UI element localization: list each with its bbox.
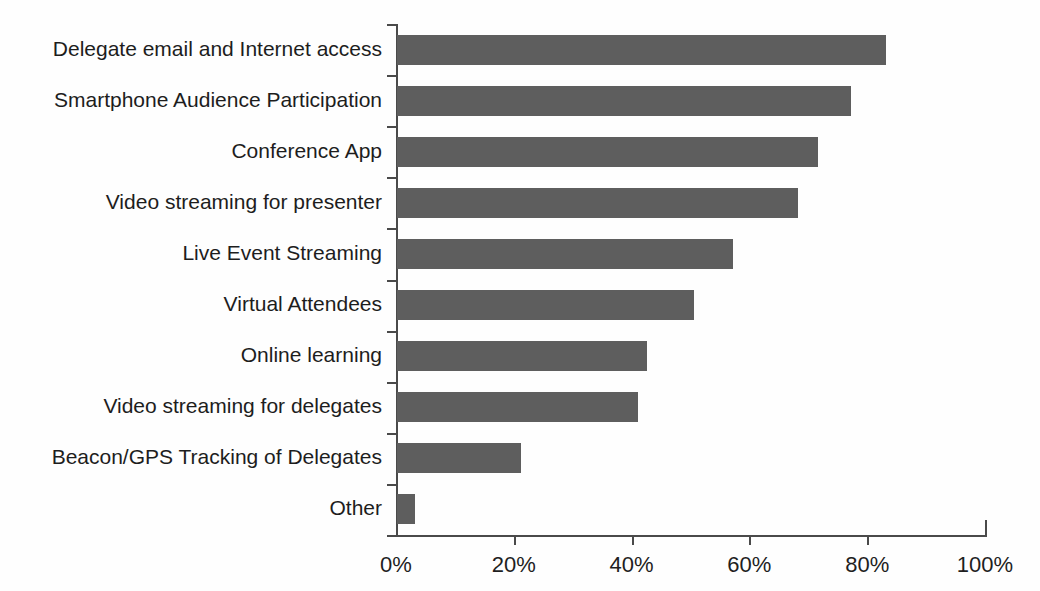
- plot-area: 0%20%40%60%80%100%: [396, 24, 985, 535]
- category-label: Other: [16, 496, 396, 520]
- x-axis-tick: [514, 535, 516, 545]
- y-axis-tick: [387, 24, 396, 26]
- y-axis-tick: [387, 126, 396, 128]
- y-axis-tick: [387, 484, 396, 486]
- x-axis-tick: [396, 524, 398, 537]
- x-axis-line: [396, 535, 985, 537]
- y-axis-tick: [387, 75, 396, 77]
- x-axis-tick-label: 60%: [727, 552, 771, 578]
- x-axis-tick-label: 100%: [957, 552, 1013, 578]
- bar: [397, 443, 521, 473]
- x-axis-tick-label: 40%: [610, 552, 654, 578]
- bar: [397, 35, 886, 65]
- bar: [397, 239, 733, 269]
- y-axis-tick: [387, 177, 396, 179]
- bar: [397, 494, 415, 524]
- category-label: Live Event Streaming: [16, 241, 396, 265]
- y-axis-tick: [387, 331, 396, 333]
- category-label: Video streaming for presenter: [16, 190, 396, 214]
- bar-chart: Delegate email and Internet accessSmartp…: [0, 0, 1040, 591]
- category-label: Smartphone Audience Participation: [16, 88, 396, 112]
- bar: [397, 137, 818, 167]
- y-axis-tick: [387, 535, 396, 537]
- bar: [397, 392, 638, 422]
- bar: [397, 86, 851, 116]
- bar: [397, 188, 798, 218]
- category-label: Video streaming for delegates: [16, 394, 396, 418]
- x-axis-tick-label: 20%: [492, 552, 536, 578]
- x-axis-tick-label: 80%: [845, 552, 889, 578]
- bar: [397, 341, 647, 371]
- x-axis-tick: [867, 535, 869, 545]
- category-label: Online learning: [16, 343, 396, 367]
- bar: [397, 290, 694, 320]
- category-label: Beacon/GPS Tracking of Delegates: [16, 445, 396, 469]
- y-axis-tick: [387, 228, 396, 230]
- x-axis-tick: [749, 535, 751, 545]
- x-axis-tick-label: 0%: [380, 552, 412, 578]
- y-axis-tick: [387, 280, 396, 282]
- y-axis-tick: [387, 382, 396, 384]
- x-axis-tick: [632, 535, 634, 545]
- category-label: Conference App: [16, 139, 396, 163]
- category-label: Delegate email and Internet access: [16, 37, 396, 61]
- y-axis-tick: [387, 433, 396, 435]
- category-labels: Delegate email and Internet accessSmartp…: [0, 24, 396, 535]
- category-label: Virtual Attendees: [16, 292, 396, 316]
- x-axis-tick: [985, 520, 987, 537]
